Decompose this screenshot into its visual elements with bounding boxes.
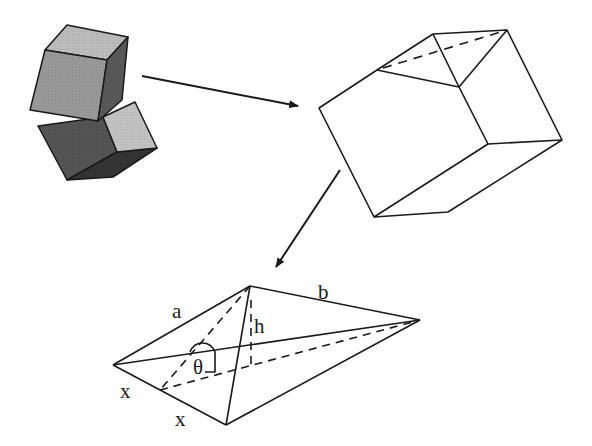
tetrahedron xyxy=(113,286,420,425)
label-x-left: x xyxy=(120,379,131,403)
cleaved-block xyxy=(319,30,562,217)
figure-canvas: a b h θ x x xyxy=(0,0,592,446)
edge-a xyxy=(113,286,250,365)
label-a: a xyxy=(172,299,182,323)
arrow-cubes-to-block xyxy=(142,76,298,106)
label-theta: θ xyxy=(193,355,203,379)
stacked-cubes xyxy=(30,25,157,180)
label-b: b xyxy=(318,280,329,304)
arrow-block-to-tetrahedron xyxy=(276,170,340,267)
label-h: h xyxy=(254,314,265,338)
edge-b xyxy=(250,286,420,320)
cleavage-plane-dashed xyxy=(383,30,507,68)
label-x-bottom: x xyxy=(175,407,186,431)
